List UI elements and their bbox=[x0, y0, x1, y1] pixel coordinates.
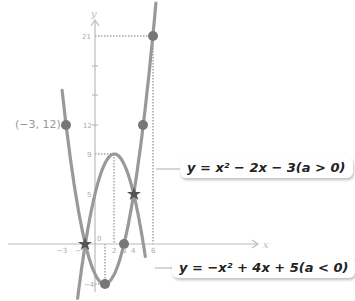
svg-text:−4: −4 bbox=[84, 281, 95, 289]
svg-text:2: 2 bbox=[112, 247, 116, 255]
equation-label-upward: y = x² − 2x − 3(a > 0) bbox=[180, 157, 353, 178]
svg-text:5: 5 bbox=[87, 191, 91, 199]
point-label: (−3, 12) bbox=[15, 118, 61, 131]
svg-text:12: 12 bbox=[83, 122, 92, 130]
svg-text:3: 3 bbox=[122, 247, 126, 255]
label-connectors bbox=[155, 169, 180, 268]
svg-text:−1: −1 bbox=[75, 247, 85, 255]
svg-text:21: 21 bbox=[82, 33, 91, 41]
equation-label-downward: y = −x² + 4x + 5(a < 0) bbox=[172, 257, 355, 278]
y-axis-label: y bbox=[90, 8, 97, 19]
svg-text:6: 6 bbox=[151, 247, 156, 255]
point-dot bbox=[61, 120, 71, 130]
svg-text:4: 4 bbox=[131, 247, 136, 255]
point-dot bbox=[100, 279, 110, 289]
x-axis-label: x bbox=[263, 239, 269, 250]
svg-text:−3: −3 bbox=[57, 247, 67, 255]
svg-text:9: 9 bbox=[87, 151, 91, 159]
point-dot bbox=[138, 120, 148, 130]
svg-text:0: 0 bbox=[97, 235, 101, 243]
point-dot bbox=[148, 31, 158, 41]
